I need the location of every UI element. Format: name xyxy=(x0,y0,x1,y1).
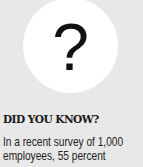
card-body-text: In a recent survey of 1,000 employees, 5… xyxy=(3,135,143,162)
question-mark-icon: ? xyxy=(23,14,118,80)
body-line-1: In a recent survey of 1,000 xyxy=(3,135,143,149)
body-line-2: employees, 55 percent xyxy=(3,149,143,163)
card-heading: DID YOU KNOW? xyxy=(3,112,99,126)
did-you-know-card: ? DID YOU KNOW? In a recent survey of 1,… xyxy=(0,0,143,167)
